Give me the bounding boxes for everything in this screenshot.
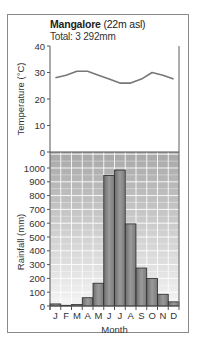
- rainfall-bar: [158, 294, 169, 306]
- month-label: J: [118, 310, 123, 321]
- month-label: M: [94, 310, 102, 321]
- rainfall-bar: [93, 283, 104, 306]
- temp-tick-label: 40: [34, 41, 45, 52]
- rain-tick-label: 400: [29, 245, 45, 256]
- month-label: F: [63, 310, 69, 321]
- month-label: J: [53, 310, 58, 321]
- month-label: O: [148, 310, 155, 321]
- rainfall-bar: [125, 224, 136, 306]
- month-label: S: [138, 310, 144, 321]
- rain-tick-label: 900: [29, 176, 45, 187]
- rain-tick-label: 1000: [24, 163, 45, 174]
- rainfall-bar: [104, 176, 115, 306]
- month-label: D: [170, 310, 177, 321]
- rain-tick-label: 800: [29, 190, 45, 201]
- month-label: A: [84, 310, 91, 321]
- rainfall-bar: [115, 170, 126, 306]
- month-label: A: [127, 310, 134, 321]
- month-label: N: [159, 310, 166, 321]
- temp-tick-label: 20: [34, 94, 45, 105]
- rain-tick-label: 100: [29, 287, 45, 298]
- rainfall-bar: [136, 268, 147, 306]
- temp-tick-label: 10: [34, 120, 45, 131]
- rainfall-bar: [168, 302, 179, 306]
- rainfall-bar: [147, 278, 158, 306]
- rainfall-bar: [82, 298, 93, 306]
- month-axis-label: Month: [101, 324, 127, 335]
- month-label: M: [73, 310, 81, 321]
- rain-tick-label: 600: [29, 218, 45, 229]
- temp-tick-label: 0: [40, 147, 45, 158]
- rain-tick-label: 200: [29, 273, 45, 284]
- rainfall-axis-label: Rainfall (mm): [15, 214, 26, 270]
- temp-tick-label: 30: [34, 67, 45, 78]
- temperature-axis-label: Temperature (°C): [15, 63, 26, 136]
- rain-tick-label: 500: [29, 232, 45, 243]
- month-label: J: [107, 310, 112, 321]
- climate-chart: 0102030401002003004005006007008009001000…: [0, 0, 197, 343]
- rain-tick-label: 700: [29, 204, 45, 215]
- temperature-line: [55, 71, 173, 83]
- rain-tick-label: 0: [40, 301, 45, 312]
- rain-tick-label: 300: [29, 259, 45, 270]
